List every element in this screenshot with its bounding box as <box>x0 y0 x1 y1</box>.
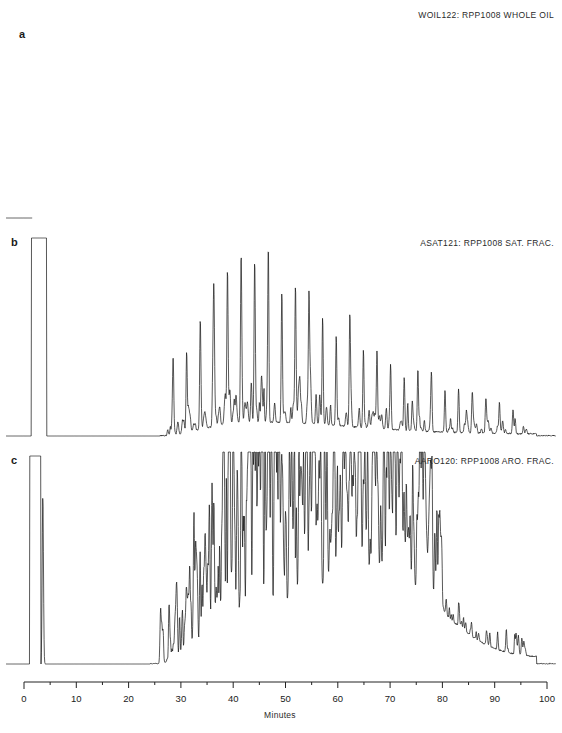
x-axis-tick-label: 0 <box>21 693 26 704</box>
trace-saturate-fraction <box>0 232 562 448</box>
panel-title-saturate-fraction: ASAT121: RPP1008 SAT. FRAC. <box>420 238 554 248</box>
panel-aromatic-fraction <box>0 450 562 678</box>
x-axis-tick-label: 70 <box>385 693 396 704</box>
x-axis-tick-label: 50 <box>280 693 291 704</box>
x-axis: 0102030405060708090100 <box>0 678 562 733</box>
x-axis-tick-label: 10 <box>71 693 82 704</box>
panel-letter-b: b <box>11 236 18 248</box>
panel-letter-a: a <box>19 28 25 40</box>
panel-whole-oil <box>0 8 562 230</box>
x-axis-tick-label: 80 <box>437 693 448 704</box>
x-axis-title-text: Minutes <box>264 710 296 720</box>
x-axis-tick-label: 100 <box>539 693 555 704</box>
x-axis-tick-label: 20 <box>123 693 134 704</box>
x-axis-title: Minutes <box>0 710 562 720</box>
chromatogram-figure: a b c WOIL122: RPP1008 WHOLE OIL ASAT121… <box>0 0 562 733</box>
x-axis-tick-label: 90 <box>489 693 500 704</box>
panel-title-whole-oil: WOIL122: RPP1008 WHOLE OIL <box>418 10 554 20</box>
trace-aromatic-fraction <box>0 450 562 678</box>
panel-title-aromatic-fraction: AARO120: RPP1008 ARO. FRAC. <box>415 456 554 466</box>
panel-letter-c: c <box>11 454 17 466</box>
x-axis-tick-label: 30 <box>176 693 187 704</box>
x-axis-tick-label: 40 <box>228 693 239 704</box>
trace-whole-oil <box>0 8 562 230</box>
x-axis-tick-label: 60 <box>333 693 344 704</box>
panel-saturate-fraction <box>0 232 562 448</box>
